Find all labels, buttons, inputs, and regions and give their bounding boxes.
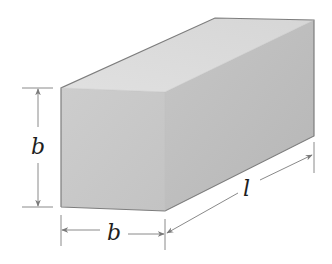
front-face (61, 88, 165, 211)
height-label: b (31, 134, 45, 159)
prism-diagram: b b l (0, 0, 332, 264)
length-label: l (243, 176, 250, 201)
width-label: b (107, 220, 121, 245)
